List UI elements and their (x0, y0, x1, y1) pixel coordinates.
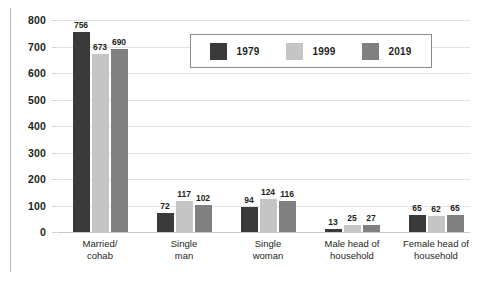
y-axis-tick-mark (52, 206, 57, 207)
bar-value-label: 124 (261, 188, 275, 197)
y-axis-tick-mark (52, 232, 57, 233)
legend-item-1979[interactable]: 1979 (210, 43, 259, 60)
bar-value-label: 116 (280, 190, 294, 199)
bar-column[interactable]: 65 (447, 20, 464, 232)
legend-label: 2019 (388, 46, 411, 57)
bar-1979[interactable] (325, 229, 342, 232)
y-axis-tick-label: 200 (28, 173, 46, 185)
bar-2019[interactable] (111, 49, 128, 232)
bar-chart-figure: 8007006005004003002001000 75667369072117… (0, 0, 493, 281)
y-axis-tick-label: 400 (28, 120, 46, 132)
bar-value-label: 673 (93, 43, 107, 52)
x-axis: Married/ cohabSingle manSingle womanMale… (58, 238, 470, 278)
bar-1979[interactable] (409, 215, 426, 232)
x-axis-tick-label: Married/ cohab (55, 238, 145, 261)
legend-item-2019[interactable]: 2019 (362, 43, 411, 60)
x-axis-tick-label: Female head of household (391, 238, 481, 261)
bar-1999[interactable] (92, 54, 109, 232)
y-axis-tick-mark (52, 20, 57, 21)
x-axis-tick-label: Single man (139, 238, 229, 261)
bar-column[interactable]: 690 (111, 20, 128, 232)
y-axis-tick-mark (52, 100, 57, 101)
bar-value-label: 13 (328, 218, 337, 227)
y-axis-tick-mark (52, 47, 57, 48)
bar-1999[interactable] (344, 225, 361, 232)
bar-1999[interactable] (260, 199, 277, 232)
legend-label: 1999 (312, 46, 335, 57)
bar-column[interactable]: 756 (73, 20, 90, 232)
y-axis-tick-mark (52, 126, 57, 127)
bar-2019[interactable] (447, 215, 464, 232)
bar-value-label: 72 (160, 202, 169, 211)
gridline (58, 232, 470, 233)
bar-2019[interactable] (363, 225, 380, 232)
y-axis-tick-label: 500 (28, 94, 46, 106)
bar-column[interactable]: 72 (157, 20, 174, 232)
bar-1979[interactable] (157, 213, 174, 232)
legend-swatch-1979 (210, 43, 227, 60)
y-axis-tick-label: 600 (28, 67, 46, 79)
y-axis-tick-label: 100 (28, 200, 46, 212)
legend-label: 1979 (236, 46, 259, 57)
bar-value-label: 65 (450, 204, 459, 213)
chart-legend: 197919992019 (190, 34, 432, 68)
y-axis-tick-mark (52, 153, 57, 154)
bar-2019[interactable] (195, 205, 212, 232)
x-axis-tick-label: Male head of household (307, 238, 397, 261)
bar-column[interactable]: 673 (92, 20, 109, 232)
bar-value-label: 27 (366, 214, 375, 223)
bar-group: 756673690 (65, 20, 135, 232)
y-axis-tick-label: 700 (28, 41, 46, 53)
bar-value-label: 25 (347, 214, 356, 223)
y-axis-tick-label: 300 (28, 147, 46, 159)
legend-swatch-2019 (362, 43, 379, 60)
bar-value-label: 756 (74, 21, 88, 30)
bar-value-label: 94 (244, 196, 253, 205)
bar-1979[interactable] (241, 207, 258, 232)
bar-value-label: 102 (196, 194, 210, 203)
bar-value-label: 65 (412, 204, 421, 213)
x-axis-tick-label: Single woman (223, 238, 313, 261)
y-axis-tick-label: 800 (28, 14, 46, 26)
bar-2019[interactable] (279, 201, 296, 232)
bar-1979[interactable] (73, 32, 90, 232)
y-axis-tick-label: 0 (40, 226, 46, 238)
y-axis: 8007006005004003002001000 (0, 20, 52, 232)
legend-swatch-1999 (286, 43, 303, 60)
bar-value-label: 62 (431, 205, 440, 214)
bar-value-label: 117 (177, 190, 191, 199)
y-axis-tick-mark (52, 179, 57, 180)
bar-1999[interactable] (428, 216, 445, 232)
bar-1999[interactable] (176, 201, 193, 232)
bar-value-label: 690 (112, 38, 126, 47)
y-axis-tick-mark (52, 73, 57, 74)
legend-item-1999[interactable]: 1999 (286, 43, 335, 60)
